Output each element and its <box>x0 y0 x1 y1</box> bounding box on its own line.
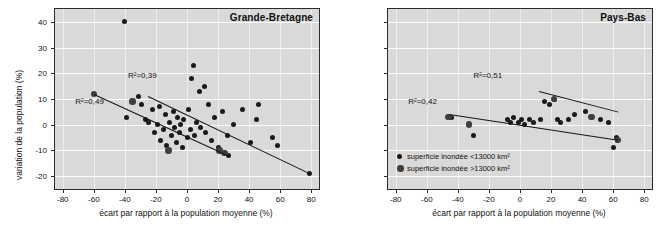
data-point <box>178 122 183 127</box>
y-tick-label: 10 <box>38 95 47 104</box>
panel-title-right: Pays-Bas <box>600 12 646 23</box>
gridline-vertical <box>218 9 219 189</box>
data-point <box>231 122 236 127</box>
x-axis-title-right: écart par rapport à la population moyenn… <box>387 208 651 218</box>
data-point <box>150 107 155 112</box>
y-tick <box>51 125 55 126</box>
x-tick-label: 80 <box>640 195 649 204</box>
y-tick <box>384 176 388 177</box>
y-tick <box>51 73 55 74</box>
y-tick-label: 0 <box>43 120 47 129</box>
gridline-vertical <box>520 9 521 189</box>
data-point <box>192 133 197 138</box>
data-point <box>175 115 180 120</box>
panel-grande-bretagne: -20-10010203040-80-60-40-20020406080R²=0… <box>0 0 333 235</box>
gridline-vertical <box>187 9 188 189</box>
y-tick <box>51 22 55 23</box>
data-point <box>157 104 162 109</box>
x-tick-label: 20 <box>547 195 556 204</box>
gridline-vertical <box>280 9 281 189</box>
legend-item-small: superficie inondée <13000 km² <box>397 152 510 161</box>
data-point <box>583 109 588 114</box>
x-tick-label: 60 <box>609 195 618 204</box>
r-squared-label: R²=0,39 <box>128 71 157 80</box>
x-axis-title-left: écart par rapport à la population moyenn… <box>54 208 318 218</box>
r-squared-label: R²=0,51 <box>473 71 502 80</box>
data-point <box>275 143 280 148</box>
x-tick <box>125 189 126 193</box>
x-tick-label: -60 <box>88 195 100 204</box>
data-point <box>558 120 563 125</box>
gridline-vertical <box>125 9 126 189</box>
data-point <box>566 117 571 122</box>
data-point <box>572 112 577 117</box>
y-tick <box>51 48 55 49</box>
gridline-vertical <box>644 9 645 189</box>
y-tick <box>384 99 388 100</box>
data-point <box>270 135 275 140</box>
plot-area-left: -20-10010203040-80-60-40-20020406080R²=0… <box>54 8 320 190</box>
gridline-vertical <box>63 9 64 189</box>
data-point <box>206 102 211 107</box>
legend-marker-small-icon <box>397 154 402 159</box>
data-point <box>124 115 129 120</box>
x-tick <box>427 189 428 193</box>
x-tick <box>63 189 64 193</box>
x-tick <box>520 189 521 193</box>
gridline-vertical <box>311 9 312 189</box>
x-tick-label: -80 <box>57 195 69 204</box>
data-point <box>169 133 174 138</box>
y-tick <box>384 150 388 151</box>
y-tick-label: -20 <box>35 172 47 181</box>
data-point <box>606 120 611 125</box>
data-point <box>122 19 127 24</box>
x-tick <box>551 189 552 193</box>
x-tick-label: 0 <box>518 195 522 204</box>
y-tick-label: -10 <box>35 146 47 155</box>
x-tick-label: 40 <box>245 195 254 204</box>
data-point <box>139 102 144 107</box>
panel-pays-bas: -80-60-40-20020406080R²=0,51R²=0,42 Pays… <box>333 0 666 235</box>
data-point <box>466 121 473 128</box>
x-tick <box>156 189 157 193</box>
data-point <box>189 76 194 81</box>
legend: superficie inondée <13000 km² superficie… <box>397 152 510 176</box>
x-tick-label: -60 <box>421 195 433 204</box>
data-point <box>240 107 245 112</box>
data-point <box>129 98 136 105</box>
x-tick-label: -40 <box>119 195 131 204</box>
data-point <box>256 102 261 107</box>
data-point <box>191 63 196 68</box>
x-tick-label: 0 <box>185 195 189 204</box>
x-tick <box>218 189 219 193</box>
x-tick-label: 20 <box>214 195 223 204</box>
data-point <box>158 138 163 143</box>
data-point <box>212 115 217 120</box>
x-tick <box>582 189 583 193</box>
data-point <box>209 138 214 143</box>
data-point <box>220 109 225 114</box>
data-point <box>203 130 208 135</box>
y-tick <box>51 176 55 177</box>
x-tick <box>489 189 490 193</box>
gridline-vertical <box>249 9 250 189</box>
x-tick-label: -40 <box>452 195 464 204</box>
x-tick <box>458 189 459 193</box>
y-tick <box>384 22 388 23</box>
x-tick-label: -80 <box>390 195 402 204</box>
data-point <box>511 115 516 120</box>
data-point <box>471 133 476 138</box>
data-point <box>538 117 543 122</box>
x-tick-label: 80 <box>307 195 316 204</box>
x-tick <box>396 189 397 193</box>
figure-root: -20-10010203040-80-60-40-20020406080R²=0… <box>0 0 666 235</box>
y-tick <box>51 99 55 100</box>
legend-label-small: superficie inondée <13000 km² <box>407 152 510 161</box>
y-tick <box>384 48 388 49</box>
r-squared-label: R²=0,42 <box>408 97 437 106</box>
y-tick-label: 40 <box>38 17 47 26</box>
x-tick-label: -20 <box>483 195 495 204</box>
data-point <box>202 84 207 89</box>
y-tick <box>51 150 55 151</box>
data-point <box>198 125 203 130</box>
